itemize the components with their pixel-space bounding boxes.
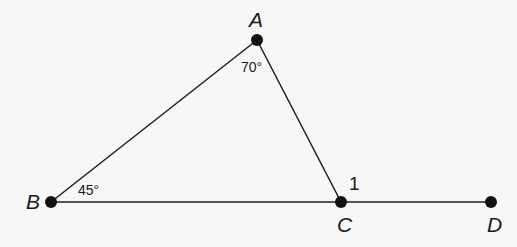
point-a (251, 34, 263, 46)
label-c: C (337, 213, 353, 236)
label-b: B (26, 190, 40, 213)
triangle-diagram: A B C D 70° 45° 1 (0, 0, 517, 247)
angle-a-label: 70° (241, 59, 262, 75)
angle-b-label: 45° (78, 182, 99, 198)
label-a: A (247, 8, 263, 31)
label-d: D (487, 213, 502, 236)
point-b (45, 196, 57, 208)
point-d (485, 196, 497, 208)
angle-1-label: 1 (349, 173, 360, 194)
point-c (335, 196, 347, 208)
segment-ab (51, 40, 257, 202)
segment-ac (257, 40, 341, 202)
